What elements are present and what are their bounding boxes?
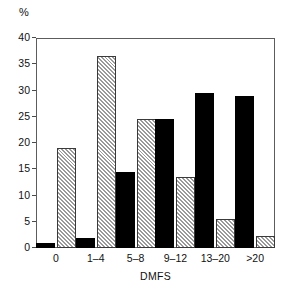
y-tick-label: 10	[18, 189, 30, 201]
bar-solid-black-series->20	[235, 96, 254, 248]
x-axis: 01–45–89–1213–20>20	[36, 252, 275, 272]
x-axis-label: 13–20	[195, 252, 235, 265]
bar-group	[76, 38, 116, 248]
bar-group	[195, 38, 235, 248]
bar-solid-black-series-0	[36, 243, 55, 248]
bar-group	[235, 38, 275, 248]
y-tick-label: 35	[18, 57, 30, 69]
y-axis: 0510152025303540	[0, 0, 36, 292]
bar-chart: % 0510152025303540 01–45–89–1213–20>20 D…	[0, 0, 286, 292]
x-axis-label: 0	[36, 252, 76, 265]
y-tick-label: 15	[18, 162, 30, 174]
bar-hatched-series->20	[256, 236, 275, 248]
bar-group	[155, 38, 195, 248]
y-tick-label: 30	[18, 84, 30, 96]
y-tick-label: 25	[18, 110, 30, 122]
bar-solid-black-series-9–12	[155, 119, 174, 248]
bar-hatched-series-1–4	[97, 56, 116, 248]
bar-solid-black-series-1–4	[76, 238, 95, 249]
bar-hatched-series-9–12	[176, 177, 195, 248]
bar-group	[36, 38, 76, 248]
bars-layer	[36, 38, 275, 248]
x-axis-title: DMFS	[36, 270, 275, 283]
bar-solid-black-series-13–20	[195, 93, 214, 248]
y-tick-label: 5	[24, 215, 30, 227]
bar-hatched-series-13–20	[216, 219, 235, 248]
x-axis-label: 1–4	[76, 252, 116, 265]
bar-solid-black-series-5–8	[116, 172, 135, 248]
bar-hatched-series-0	[57, 148, 76, 248]
y-tick-label: 0	[24, 241, 30, 253]
x-axis-label: >20	[235, 252, 275, 265]
bar-hatched-series-5–8	[137, 119, 156, 248]
x-axis-label: 9–12	[156, 252, 196, 265]
x-axis-label: 5–8	[116, 252, 156, 265]
y-tick-label: 40	[18, 31, 30, 43]
bar-group	[116, 38, 156, 248]
y-tick-label: 20	[18, 136, 30, 148]
